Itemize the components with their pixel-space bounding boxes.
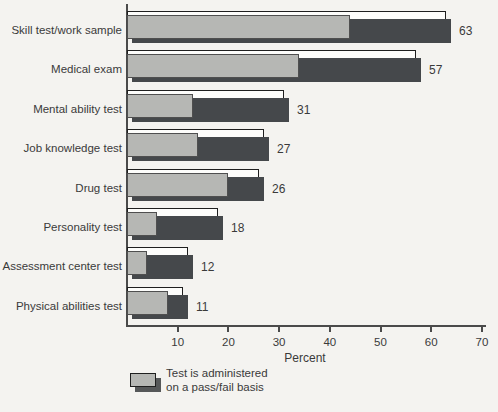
x-tick	[481, 325, 483, 332]
bar-row: Skill test/work sample63	[0, 11, 498, 51]
category-label: Skill test/work sample	[0, 24, 122, 36]
x-tick-label: 30	[262, 336, 296, 348]
x-tick	[177, 325, 179, 332]
x-tick-label: 50	[364, 336, 398, 348]
legend-label: Test is administered on a pass/fail basi…	[166, 367, 268, 394]
passfail-bar	[127, 54, 299, 78]
bar-chart-figure: Skill test/work sample63Medical exam57Me…	[0, 0, 498, 412]
passfail-bar	[127, 212, 157, 236]
x-tick	[380, 325, 382, 332]
passfail-bar	[127, 291, 168, 315]
passfail-bar	[127, 15, 350, 39]
value-label: 57	[429, 63, 442, 77]
bar-row: Mental ability test31	[0, 90, 498, 130]
category-label: Assessment center test	[0, 260, 122, 272]
x-tick-label: 40	[313, 336, 347, 348]
x-tick-label: 10	[161, 336, 195, 348]
x-tick	[278, 325, 280, 332]
passfail-bar	[127, 94, 193, 118]
bar-row: Physical abilities test11	[0, 287, 498, 327]
value-label: 26	[272, 182, 285, 196]
category-label: Job knowledge test	[0, 142, 122, 154]
x-tick	[227, 325, 229, 332]
x-tick	[430, 325, 432, 332]
x-axis-title: Percent	[127, 351, 483, 365]
category-label: Mental ability test	[0, 103, 122, 115]
x-tick	[329, 325, 331, 332]
bar-row: Job knowledge test27	[0, 129, 498, 169]
x-tick-label: 70	[465, 336, 498, 348]
value-label: 27	[277, 142, 290, 156]
category-label: Physical abilities test	[0, 300, 122, 312]
category-label: Personality test	[0, 221, 122, 233]
passfail-bar	[127, 133, 198, 157]
x-tick-label: 20	[211, 336, 245, 348]
passfail-bar	[127, 251, 147, 275]
category-label: Medical exam	[0, 63, 122, 75]
legend-label-line2: on a pass/fail basis	[166, 381, 268, 395]
legend-swatch	[130, 373, 161, 392]
category-label: Drug test	[0, 182, 122, 194]
legend-swatch-box	[130, 373, 156, 387]
value-label: 18	[231, 221, 244, 235]
value-label: 12	[201, 260, 214, 274]
bar-row: Assessment center test12	[0, 247, 498, 287]
bar-row: Personality test18	[0, 208, 498, 248]
legend-label-line1: Test is administered	[166, 367, 268, 381]
x-tick-label: 60	[414, 336, 448, 348]
bar-row: Drug test26	[0, 169, 498, 209]
passfail-bar	[127, 173, 228, 197]
value-label: 63	[459, 24, 472, 38]
bar-row: Medical exam57	[0, 50, 498, 90]
value-label: 31	[297, 103, 310, 117]
value-label: 11	[196, 300, 208, 314]
